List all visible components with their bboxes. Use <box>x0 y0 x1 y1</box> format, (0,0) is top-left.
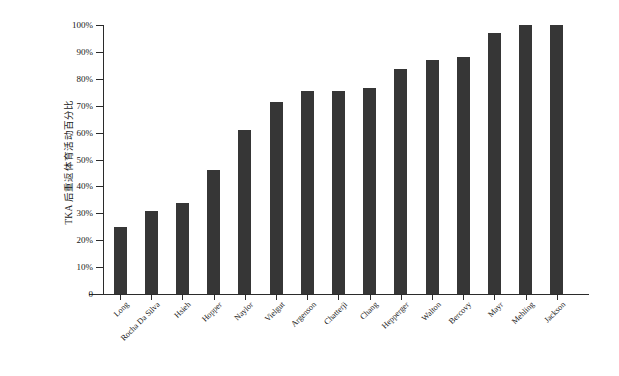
x-tick-label: Mayr <box>486 300 505 319</box>
bar <box>519 25 532 294</box>
y-tick-label: 20% <box>77 235 94 245</box>
bar <box>488 33 501 294</box>
y-tick-mark <box>96 25 103 26</box>
y-tick-mark <box>96 294 103 295</box>
bar <box>550 25 563 294</box>
y-tick-label: 0 <box>89 289 94 299</box>
bar <box>270 102 283 294</box>
x-tick-label: Hopper <box>200 300 224 324</box>
bar <box>363 88 376 294</box>
bar <box>301 91 314 294</box>
y-tick-mark <box>96 106 103 107</box>
y-tick-mark <box>96 133 103 134</box>
x-tick-label: Chatterji <box>322 300 349 327</box>
x-tick-label: Hepperger <box>380 300 411 331</box>
y-tick-label: 30% <box>77 208 94 218</box>
y-tick-label: 40% <box>77 181 94 191</box>
x-tick-label: Mehling <box>510 300 536 326</box>
y-tick-label: 80% <box>77 74 94 84</box>
y-tick-mark <box>96 52 103 53</box>
y-tick-label: 100% <box>72 20 93 30</box>
x-tick-label: Vielgut <box>263 300 286 323</box>
bar <box>207 170 220 294</box>
bar <box>145 211 158 294</box>
x-tick-label: Long <box>112 300 131 319</box>
y-tick-mark <box>96 213 103 214</box>
y-tick-label: 90% <box>77 47 94 57</box>
y-tick-mark <box>96 186 103 187</box>
y-axis-title: TKA 后重返体育活动百分比 <box>61 32 75 292</box>
chart-figure: TKA 后重返体育活动百分比 010%20%30%40%50%60%70%80%… <box>0 0 619 376</box>
bar <box>457 57 470 294</box>
bar <box>332 91 345 294</box>
bar <box>426 60 439 294</box>
x-tick-label: Jackson <box>542 300 567 325</box>
x-tick-label: Chang <box>358 300 379 321</box>
bar <box>114 227 127 294</box>
bar <box>238 130 251 294</box>
x-tick-label: Walton <box>419 300 442 323</box>
y-tick-label: 60% <box>77 128 94 138</box>
y-axis-line <box>103 25 104 294</box>
x-tick-label: Argenson <box>289 300 318 329</box>
y-tick-label: 70% <box>77 101 94 111</box>
x-axis-labels: LongRocha Da SilvaHsiehHopperNaylorVielg… <box>103 300 603 370</box>
y-tick-label: 10% <box>77 262 94 272</box>
x-tick-label: Bercovy <box>448 300 474 326</box>
x-tick-label: Naylor <box>233 300 255 322</box>
y-tick-label: 50% <box>77 155 94 165</box>
bar <box>176 203 189 294</box>
y-tick-mark <box>96 240 103 241</box>
bar <box>394 69 407 294</box>
y-tick-mark <box>96 79 103 80</box>
y-tick-mark <box>96 160 103 161</box>
y-tick-mark <box>96 267 103 268</box>
plot-area: 010%20%30%40%50%60%70%80%90%100% <box>103 25 583 294</box>
x-tick-label: Hsieh <box>173 300 193 320</box>
